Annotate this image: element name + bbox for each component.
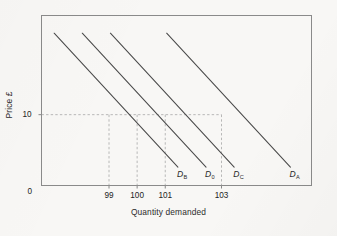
curve-label-name: D (205, 169, 211, 179)
curve-label-subscript: 0 (212, 174, 215, 180)
y-tick-label: 10 (23, 110, 32, 119)
axis-ticks (39, 115, 222, 189)
x-tick-label: 101 (158, 191, 172, 200)
demand-curves (54, 33, 290, 167)
x-tick-label: 103 (215, 191, 229, 200)
curve-label-subscript: B (183, 174, 187, 180)
curve-label: DC (233, 169, 243, 179)
demand-curve (110, 33, 234, 167)
y-tick-label: 0 (28, 187, 33, 196)
curve-label-subscript: A (296, 174, 300, 180)
curve-label-subscript: C (240, 174, 244, 180)
curve-label: DA (289, 169, 299, 179)
plot-frame (42, 16, 312, 186)
demand-curve (54, 33, 178, 167)
x-axis-title: Quantity demanded (0, 207, 337, 217)
curve-label-name: D (289, 169, 295, 179)
curve-label: DB (177, 169, 187, 179)
x-tick-label: 99 (102, 191, 116, 200)
y-axis-title: Price £ (4, 75, 14, 135)
curve-label-name: D (233, 169, 239, 179)
chart-canvas (0, 0, 337, 236)
demand-curve (167, 33, 291, 167)
demand-curve (82, 33, 206, 167)
x-tick-label: 100 (130, 191, 144, 200)
reference-lines (42, 115, 222, 186)
curve-label: D0 (205, 169, 214, 179)
demand-curve-figure: Price £ Quantity demanded 01099100101103… (0, 0, 337, 236)
